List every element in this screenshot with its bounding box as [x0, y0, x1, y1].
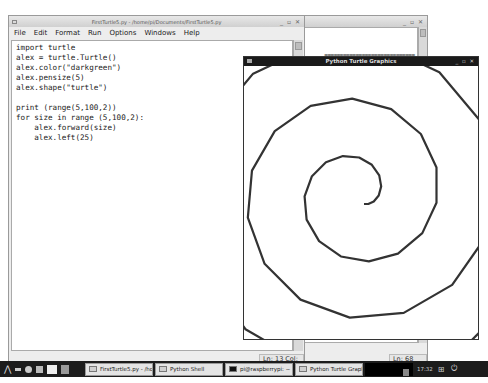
- turtle-titlebar[interactable]: Python Turtle Graphics _ ▫ ✕: [244, 57, 478, 66]
- window-menu-icon[interactable]: [247, 59, 252, 63]
- menu-format[interactable]: Format: [55, 29, 80, 37]
- menu-edit[interactable]: Edit: [34, 29, 48, 37]
- menu-windows[interactable]: Windows: [144, 29, 175, 37]
- spiral-path: [244, 66, 478, 339]
- menu-file[interactable]: File: [14, 29, 26, 37]
- scroll-thumb[interactable]: [295, 42, 302, 50]
- terminal-icon: [229, 366, 237, 372]
- power-icon[interactable]: ⏻: [451, 364, 457, 374]
- menu-run[interactable]: Run: [88, 29, 101, 37]
- editor-titlebar[interactable]: FirstTurtle5.py - /home/pi/Documents/Fir…: [9, 16, 304, 27]
- cpu-monitor: [365, 363, 413, 376]
- taskbar-item-shell[interactable]: Python Shell: [155, 363, 223, 376]
- terminal-launcher-icon[interactable]: [47, 365, 57, 374]
- clock[interactable]: 17:32: [417, 366, 433, 372]
- scroll-thumb[interactable]: [420, 29, 426, 37]
- browser-icon[interactable]: [15, 368, 21, 371]
- shell-titlebar[interactable]: _ ▫ ✕: [301, 16, 427, 27]
- raspberry-menu-icon[interactable]: ⋀: [4, 364, 11, 374]
- taskbar: ⋀ FirstTurtle5.py - /home/pi... Python S…: [0, 361, 488, 377]
- editor-title: FirstTurtle5.py - /home/pi/Documents/Fir…: [9, 19, 304, 25]
- desktop-icon[interactable]: [61, 365, 69, 374]
- turtle-graphics-window: Python Turtle Graphics _ ▫ ✕ ✱: [243, 56, 479, 340]
- network-icon[interactable]: ⊞: [438, 365, 445, 374]
- turtle-canvas[interactable]: ✱: [244, 66, 478, 339]
- window-controls[interactable]: _ ▫ ✕: [455, 57, 475, 66]
- launcher-icons: ⋀: [0, 364, 85, 374]
- window-icon: [89, 366, 97, 372]
- taskbar-item-turtle[interactable]: Python Turtle Graphics: [295, 363, 363, 376]
- menu-options[interactable]: Options: [109, 29, 136, 37]
- file-manager-icon[interactable]: [36, 366, 43, 373]
- window-controls[interactable]: _ ▫ ✕: [280, 18, 301, 25]
- taskbar-item-editor[interactable]: FirstTurtle5.py - /home/pi...: [85, 363, 153, 376]
- turtle-window-title: Python Turtle Graphics: [325, 58, 396, 64]
- globe-icon[interactable]: [25, 366, 32, 373]
- taskbar-item-terminal[interactable]: pi@raspberrypi: ~: [225, 363, 293, 376]
- menu-help[interactable]: Help: [184, 29, 200, 37]
- window-icon: [159, 366, 167, 372]
- menu-bar: File Edit Format Run Options Windows Hel…: [9, 27, 304, 39]
- window-controls[interactable]: _ ▫ ✕: [403, 18, 424, 25]
- code-line: import turtle: [16, 43, 288, 53]
- window-icon: [299, 366, 307, 372]
